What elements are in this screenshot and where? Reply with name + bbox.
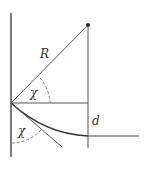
upper-angle-label: χ [30, 87, 37, 99]
radius-label: R [40, 48, 49, 60]
lower-angle-label: χ [18, 125, 25, 137]
radius-line [11, 25, 88, 103]
diagram-svg [0, 0, 151, 171]
trajectory-diagram: R χ χ d [0, 0, 151, 171]
distance-label: d [92, 115, 100, 127]
lower-angle-arc [11, 130, 41, 143]
upper-angle-arc [40, 78, 50, 103]
